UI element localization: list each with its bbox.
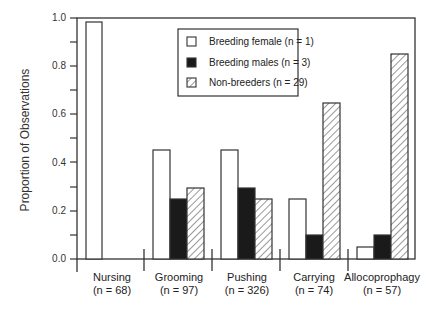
bar-breeding-males xyxy=(374,235,391,259)
bar-breeding-female xyxy=(153,150,170,259)
bar-breeding-female xyxy=(357,247,374,259)
bar-breeding-female xyxy=(289,199,306,259)
bar-group-allocoprophagy xyxy=(357,54,408,259)
bar-breeding-males xyxy=(238,188,255,259)
category-label-grooming: Grooming xyxy=(155,271,203,283)
y-tick-label: 0.6 xyxy=(52,108,66,119)
bar-non-breeders xyxy=(391,54,408,259)
bar-breeding-males xyxy=(306,235,323,259)
category-label-carrying: Carrying xyxy=(293,271,335,283)
y-tick-label: 0.4 xyxy=(52,157,66,168)
y-tick-label: 0.8 xyxy=(52,60,66,71)
legend-swatch-breeding-female xyxy=(187,37,196,46)
legend-swatch-breeding-males xyxy=(187,58,196,67)
bar-group-pushing xyxy=(221,150,272,259)
bar-non-breeders xyxy=(255,199,272,259)
y-axis-label: Proportion of Observations xyxy=(18,69,32,212)
category-n-pushing: (n = 326) xyxy=(225,284,269,296)
legend-label-non-breeders: Non-breeders (n = 29) xyxy=(209,77,308,88)
bar-non-breeders xyxy=(323,103,340,259)
category-n-carrying: (n = 74) xyxy=(295,284,333,296)
y-axis xyxy=(70,18,77,259)
category-label-allocoprophagy: Allocoprophagy xyxy=(344,271,420,283)
legend: Breeding female (n = 1) Breeding males (… xyxy=(178,29,314,96)
legend-label-breeding-males: Breeding males (n = 3) xyxy=(209,57,310,68)
bar-group-grooming xyxy=(153,150,204,259)
bar-breeding-female xyxy=(221,150,238,259)
y-tick-label: 0.2 xyxy=(52,205,66,216)
y-tick-label: 0.0 xyxy=(52,253,66,264)
category-label-pushing: Pushing xyxy=(227,271,267,283)
bar-breeding-males xyxy=(170,199,187,259)
bar-group-carrying xyxy=(289,103,340,259)
bar-non-breeders xyxy=(187,188,204,259)
y-tick-label: 1.0 xyxy=(52,12,66,23)
legend-swatch-non-breeders xyxy=(187,78,196,87)
bar-chart: 0.0 0.2 0.4 0.6 0.8 1.0 Proportion of Ob… xyxy=(0,0,438,312)
category-n-grooming: (n = 97) xyxy=(160,284,198,296)
category-n-allocoprophagy: (n = 57) xyxy=(363,284,401,296)
legend-label-breeding-female: Breeding female (n = 1) xyxy=(209,36,314,47)
category-n-nursing: (n = 68) xyxy=(93,284,131,296)
bar-group-nursing xyxy=(86,22,102,259)
category-label-nursing: Nursing xyxy=(93,271,131,283)
bar-breeding-female xyxy=(86,22,102,259)
